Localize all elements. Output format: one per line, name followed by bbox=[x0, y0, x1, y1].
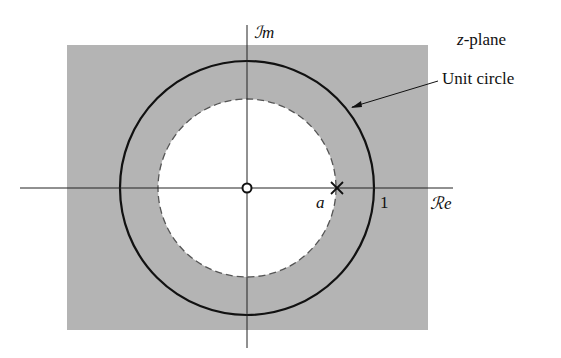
plane-suffix: -plane bbox=[464, 30, 506, 49]
zero-marker-icon bbox=[243, 184, 252, 193]
real-axis-label: ℛe bbox=[430, 193, 452, 214]
unit-tick-label: 1 bbox=[380, 193, 389, 213]
imag-axis-label: ℐm bbox=[254, 22, 274, 43]
unit-circle-label: Unit circle bbox=[442, 69, 514, 89]
z-plane-diagram bbox=[0, 0, 561, 358]
pole-label: a bbox=[316, 193, 325, 213]
plane-variable: z bbox=[457, 30, 464, 49]
plane-label: z-plane bbox=[457, 30, 506, 50]
